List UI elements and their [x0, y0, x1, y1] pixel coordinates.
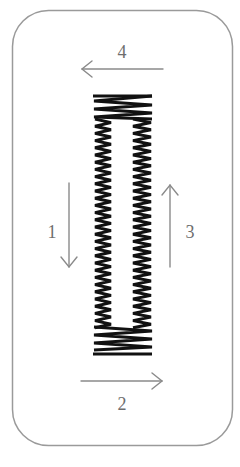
right-zigzag-stitch — [133, 119, 151, 328]
diagram-frame — [13, 11, 233, 446]
left-zigzag-stitch — [95, 119, 111, 328]
arrow-right-icon — [81, 373, 162, 389]
step-label-4: 4 — [118, 43, 127, 61]
step-label-3: 3 — [186, 223, 195, 241]
top-bartack-stitch — [93, 96, 152, 119]
bottom-bartack-stitch — [93, 327, 152, 354]
step-label-2: 2 — [118, 395, 127, 413]
step-label-1: 1 — [48, 223, 57, 241]
arrow-up-icon — [162, 185, 178, 267]
buttonhole-diagram: 4 2 1 3 — [0, 0, 240, 467]
arrow-left-icon — [82, 61, 163, 77]
arrow-down-icon — [61, 183, 77, 267]
